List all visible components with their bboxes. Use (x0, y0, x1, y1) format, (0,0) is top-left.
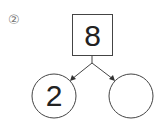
arrowhead-right-icon (109, 75, 115, 81)
arrow-left (72, 63, 92, 79)
top-value: 8 (72, 21, 113, 51)
number-bond-diagram (0, 0, 163, 127)
left-value: 2 (32, 81, 76, 111)
right-circle (109, 74, 153, 118)
arrow-right (92, 63, 113, 79)
